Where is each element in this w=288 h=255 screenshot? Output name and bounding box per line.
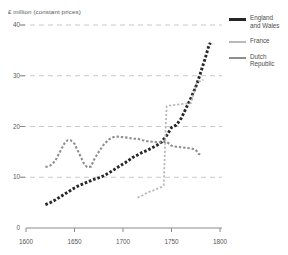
legend-item-label: Englandand Wales [250, 14, 280, 29]
y-tick-label: 20 [6, 123, 20, 130]
x-tick-label: 1700 [110, 238, 136, 245]
chart-container: £ million (constant prices) 403020100 16… [0, 0, 288, 255]
y-tick-label: 0 [6, 224, 20, 231]
x-tick-label: 1800 [207, 238, 233, 245]
legend-item[interactable]: Englandand Wales [229, 14, 287, 29]
x-tick-label: 1750 [159, 238, 185, 245]
legend-swatch-icon [229, 57, 246, 59]
legend-item[interactable]: DutchRepublic [229, 53, 287, 68]
legend-item[interactable]: France [229, 37, 287, 45]
series-layer [45, 43, 210, 205]
legend-swatch-icon [229, 18, 246, 21]
legend-item-label: France [250, 37, 270, 45]
legend: Englandand WalesFranceDutchRepublic [229, 14, 287, 76]
y-tick-label: 10 [6, 173, 20, 180]
legend-swatch-icon [229, 41, 246, 43]
axis-lines [20, 25, 222, 232]
gridlines [21, 25, 222, 177]
x-tick-label: 1600 [13, 238, 39, 245]
legend-item-label: DutchRepublic [250, 53, 275, 68]
x-tick-label: 1650 [62, 238, 88, 245]
y-tick-label: 40 [6, 21, 20, 28]
y-tick-label: 30 [6, 72, 20, 79]
